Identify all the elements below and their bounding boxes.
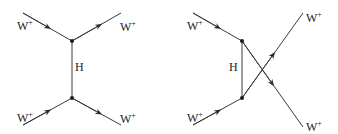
vertex-top (240, 39, 244, 43)
label-out-top: W+ (120, 19, 136, 34)
label-out-bottom: W+ (306, 119, 322, 134)
feynman-diagrams: W+ W+ W+ W+ H W+ W+ W+ W+ H (0, 0, 338, 134)
label-in-top: W+ (17, 18, 33, 33)
vertex-top (70, 39, 74, 43)
label-out-top: W+ (306, 10, 322, 25)
diagram-left: W+ W+ W+ W+ H (17, 13, 136, 126)
vertex-bottom (70, 96, 74, 100)
arrow-icon (72, 26, 99, 41)
vertex-bottom (240, 96, 244, 100)
label-propagator: H (229, 60, 238, 74)
label-in-bottom: W+ (17, 110, 33, 125)
arrow-icon (72, 98, 99, 113)
label-propagator: H (75, 60, 84, 74)
arrow-icon (242, 55, 273, 98)
label-in-bottom: W+ (187, 110, 203, 125)
label-in-top: W+ (187, 18, 203, 33)
diagram-right: W+ W+ W+ W+ H (187, 10, 322, 134)
label-out-bottom: W+ (120, 111, 136, 126)
